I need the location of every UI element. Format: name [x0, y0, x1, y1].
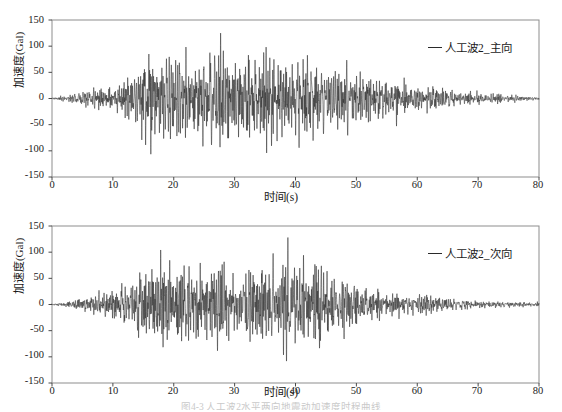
y-tick-top-0: 0: [14, 91, 44, 102]
plot-area-main-direction: [0, 0, 562, 206]
x-axis-title-bottom: 时间(s): [0, 383, 562, 399]
legend-main-direction: 人工波2_主向: [428, 39, 512, 55]
y-tick-bottom-m50: -50: [14, 323, 44, 334]
y-tick-top-100: 100: [14, 39, 44, 50]
y-tick-bottom-m100: -100: [14, 349, 44, 360]
y-tick-bottom-150: 150: [14, 220, 44, 231]
x-axis-title-top: 时间(s): [0, 188, 562, 204]
y-tick-top-50: 50: [14, 65, 44, 76]
y-tick-top-m50: -50: [14, 117, 44, 128]
chart-panel-secondary-direction: 加速度(Gal) 150 100 50 0 -50 -100 -150 0 10…: [0, 206, 562, 412]
y-tick-bottom-100: 100: [14, 245, 44, 256]
legend-line-swatch-icon: [428, 47, 442, 48]
figure-caption-fragment: 图4-3 人工波2水平两向地震动加速度时程曲线: [0, 399, 562, 410]
legend-label-main: 人工波2_主向: [445, 39, 512, 55]
legend-line-swatch-icon: [428, 253, 442, 254]
chart-panel-main-direction: 加速度(Gal) 150 100 50 0 -50 -100 -150 0 10…: [0, 0, 562, 206]
figure-container: 加速度(Gal) 150 100 50 0 -50 -100 -150 0 10…: [0, 0, 562, 412]
legend-label-secondary: 人工波2_次向: [445, 245, 512, 261]
y-tick-top-150: 150: [14, 14, 44, 25]
legend-secondary-direction: 人工波2_次向: [428, 245, 512, 261]
y-tick-bottom-0: 0: [14, 297, 44, 308]
y-tick-bottom-50: 50: [14, 271, 44, 282]
y-tick-top-m100: -100: [14, 143, 44, 154]
plot-area-secondary-direction: [0, 206, 562, 412]
